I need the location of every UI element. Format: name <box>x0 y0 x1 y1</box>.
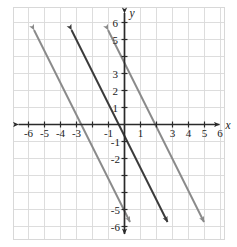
y-tick-label: 3 <box>113 68 119 80</box>
y-tick-label: 5 <box>113 34 119 46</box>
x-tick-label: -3 <box>72 127 82 139</box>
y-tick-label: -5 <box>111 204 121 216</box>
y-tick-label: 1 <box>113 102 119 114</box>
x-tick-label: 5 <box>202 127 208 139</box>
x-tick-label: -5 <box>40 127 50 139</box>
y-tick-label: 6 <box>113 17 119 29</box>
graph-figure: -6 -5 -4 -3 -1 1 3 4 5 6 6 5 3 2 1 -1 -2… <box>0 0 237 247</box>
x-tick-label: 1 <box>138 127 144 139</box>
y-tick-label: -6 <box>111 221 121 233</box>
y-tick-label: 2 <box>113 85 119 97</box>
y-tick-label: -2 <box>111 153 120 165</box>
x-tick-label: 6 <box>217 127 223 139</box>
x-tick-label: -4 <box>56 127 66 139</box>
x-tick-label: 4 <box>186 127 192 139</box>
x-tick-label: -6 <box>24 127 34 139</box>
y-tick-label: -1 <box>111 136 120 148</box>
x-tick-label: 3 <box>170 127 176 139</box>
coordinate-plane: -6 -5 -4 -3 -1 1 3 4 5 6 6 5 3 2 1 -1 -2… <box>0 0 237 247</box>
x-axis-label: x <box>224 119 231 131</box>
y-axis-label: y <box>128 7 135 20</box>
